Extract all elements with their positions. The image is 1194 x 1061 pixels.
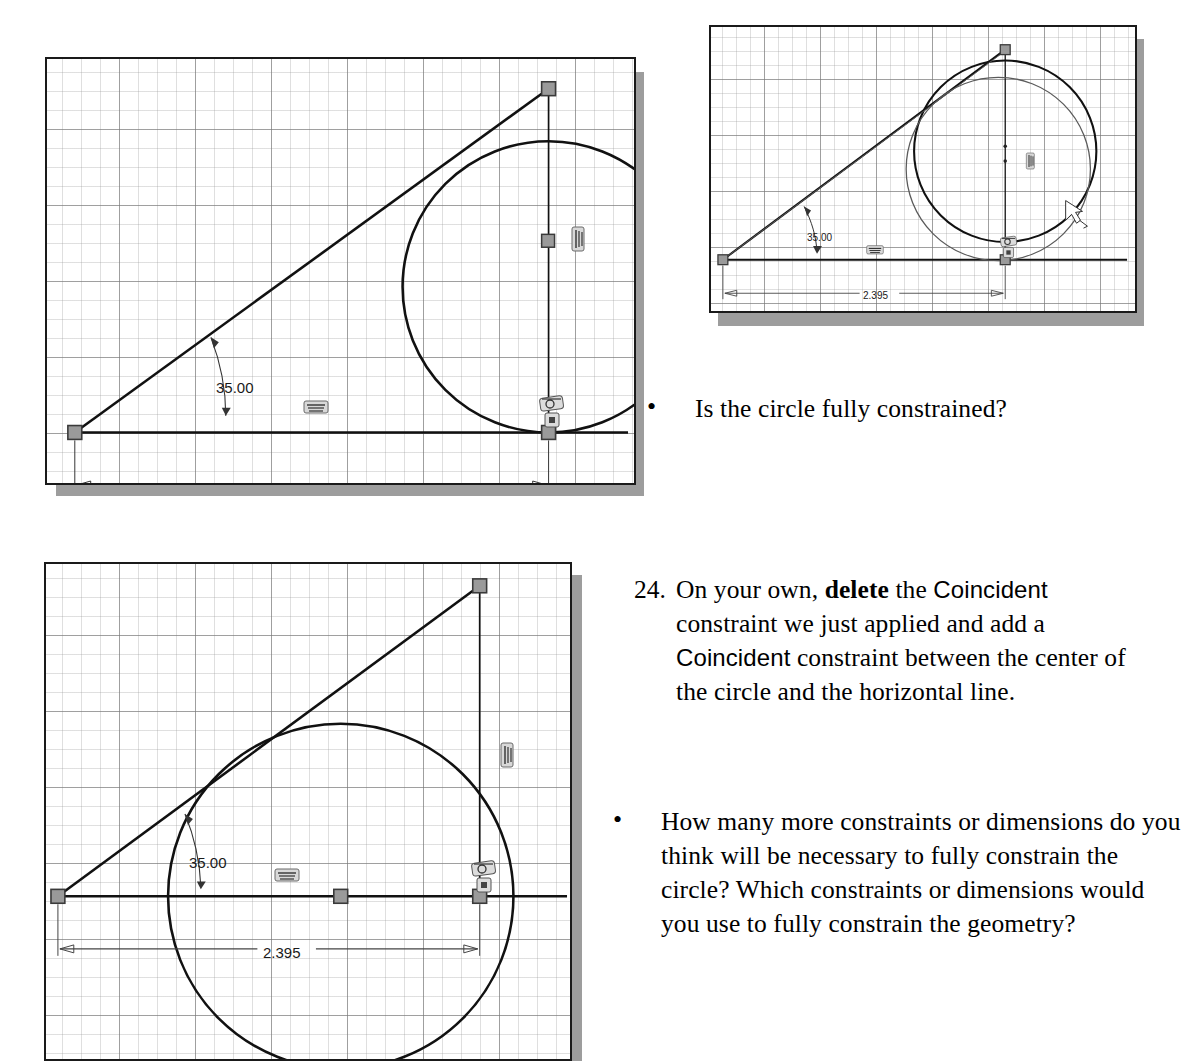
angle-dimension-label: 35.00 (189, 854, 227, 871)
vertical-constraint-icon (570, 226, 588, 256)
angle-arrow-lower (222, 408, 231, 416)
linear-dimension-label: 2.395 (863, 290, 888, 301)
horizontal-constraint-icon (866, 243, 884, 261)
point-handle-center (542, 234, 555, 247)
angle-arrow-upper (211, 337, 219, 348)
angle-dimension-arc (804, 206, 817, 251)
point-handle-circle-center (334, 889, 348, 903)
seg-coincident-1: Coincident (933, 576, 1047, 603)
ghost-center-point (1003, 159, 1007, 163)
seg-on-your-own: On your own, (676, 575, 825, 604)
coincident-constraint-icon (475, 876, 493, 898)
seg-middle: constraint we just applied and add a (676, 609, 1045, 638)
dim-arrow-left (77, 481, 91, 483)
angle-dimension-label: 35.00 (807, 232, 832, 243)
seg-the: the (889, 575, 933, 604)
angle-dimension-arc (185, 814, 201, 886)
instruction-number: 24. (634, 573, 676, 607)
bullet-icon: • (613, 805, 639, 835)
horizontal-constraint-icon (274, 867, 300, 889)
angle-arrow-lower (813, 246, 822, 254)
page-root: 35.00 2.395 (0, 0, 1194, 1061)
horizontal-constraint-icon (303, 399, 329, 421)
point-handle-top (473, 579, 487, 593)
angle-dimension-label: 35.00 (216, 379, 254, 396)
seg-coincident-2: Coincident (676, 644, 790, 671)
coincident-constraint-icon (543, 411, 561, 433)
figure-bottom-left: 35.00 2.395 (44, 562, 572, 1061)
ghost-line (723, 49, 1008, 260)
angle-dimension-arc (211, 337, 226, 415)
instruction-text: On your own, delete the Coincident const… (676, 573, 1146, 709)
point-handle-origin (718, 255, 728, 265)
linear-dimension-label: 2.395 (287, 481, 325, 485)
point-handle-top (542, 82, 556, 96)
angled-line (75, 89, 549, 433)
instruction-24: 24. On your own, delete the Coincident c… (634, 573, 1179, 709)
drag-cursor-icon (1066, 201, 1088, 229)
figure-top-right: 35.00 2.395 (709, 25, 1137, 313)
bullet-text: Is the circle fully constrained? (673, 392, 1007, 426)
center-point (1003, 145, 1007, 149)
angle-arrow-upper (804, 206, 811, 216)
angle-arrow-lower (197, 881, 206, 889)
point-handle-origin (68, 426, 82, 440)
circle (403, 141, 634, 432)
linear-dimension-label: 2.395 (263, 944, 301, 961)
sketch-geometry (711, 27, 1135, 311)
vertical-constraint-icon (499, 742, 517, 772)
bullet-text: How many more constraints or dimensions … (639, 805, 1181, 941)
figure-top-left: 35.00 2.395 (45, 57, 636, 485)
sketch-geometry (46, 564, 570, 1059)
dim-arrow-right (533, 481, 547, 483)
vertical-constraint-icon (1025, 152, 1037, 174)
bullet-icon: • (647, 392, 673, 422)
seg-delete: delete (825, 575, 889, 604)
coincident-constraint-icon (1002, 245, 1015, 263)
bullet-fully-constrained: • Is the circle fully constrained? (647, 392, 1167, 426)
point-handle-top (1000, 45, 1010, 55)
point-handle-origin (51, 889, 65, 903)
bullet-how-many-more: • How many more constraints or dimension… (613, 805, 1183, 941)
